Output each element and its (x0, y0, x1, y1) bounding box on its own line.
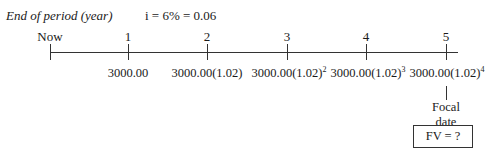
interest-rate: i = 6% = 0.06 (145, 8, 216, 24)
cashflow-1: 3000.00 (108, 66, 149, 81)
cashflow-base: 3000.00(1.02) (410, 66, 481, 80)
cashflow-5: 3000.00(1.02)4 (410, 66, 485, 81)
future-value-box: FV = ? (413, 125, 473, 148)
tick-label-5: 5 (443, 29, 450, 45)
tick-label-1: 1 (125, 29, 132, 45)
focal-connector (446, 86, 447, 100)
tick-2 (207, 44, 208, 60)
tick-3 (287, 44, 288, 60)
future-value-label: FV = ? (426, 129, 461, 144)
cashflow-2: 3000.00(1.02) (172, 66, 243, 81)
tick-label-2: 2 (204, 29, 211, 45)
cashflow-base: 3000.00(1.02) (331, 66, 402, 80)
cashflow-exp: 3 (401, 65, 405, 74)
cashflow-exp: 2 (322, 65, 326, 74)
axis-title: End of period (year) (6, 8, 113, 24)
tick-now (50, 44, 51, 60)
cashflow-exp: 4 (480, 65, 484, 74)
tick-4 (366, 44, 367, 60)
tick-label-3: 3 (284, 29, 291, 45)
cashflow-3: 3000.00(1.02)2 (252, 66, 327, 81)
cashflow-base: 3000.00 (108, 66, 149, 80)
focal-line1: Focal (432, 100, 460, 115)
cashflow-base: 3000.00(1.02) (172, 66, 243, 80)
tick-label-now: Now (37, 29, 62, 45)
tick-1 (128, 44, 129, 60)
tick-5 (446, 44, 447, 60)
timeline-axis (50, 52, 458, 53)
cashflow-4: 3000.00(1.02)3 (331, 66, 406, 81)
cashflow-base: 3000.00(1.02) (252, 66, 323, 80)
tick-label-4: 4 (363, 29, 370, 45)
